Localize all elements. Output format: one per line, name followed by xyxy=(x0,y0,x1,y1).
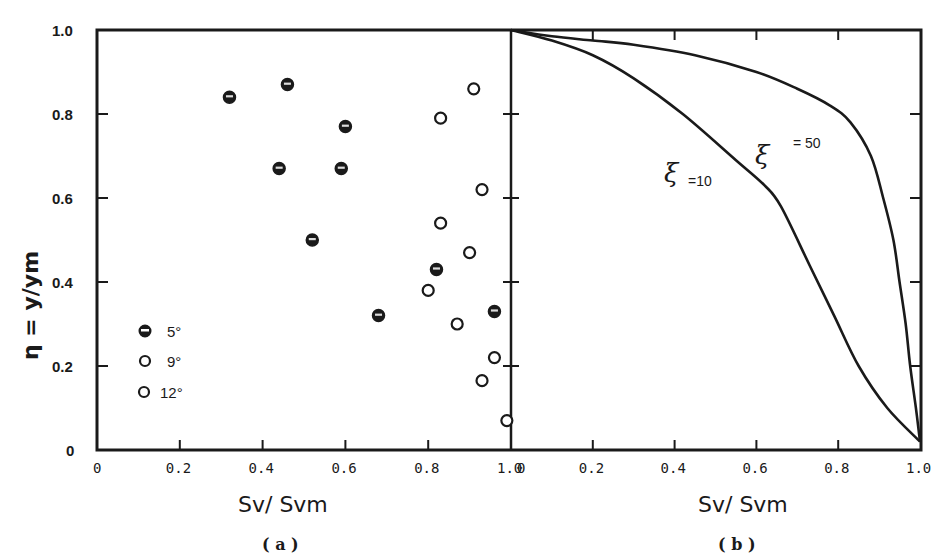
panel-label-a: ( a ) xyxy=(262,535,299,554)
x-tick-label: 0.4 xyxy=(661,460,686,476)
curve-xi-10 xyxy=(511,30,920,442)
data-point-open xyxy=(468,83,479,94)
data-point-5deg xyxy=(273,163,285,175)
figure: 00.20.40.60.81.000.20.40.60.81.000.20.40… xyxy=(0,0,947,560)
open-circle-icon xyxy=(140,356,150,366)
x-tick-label: 0.2 xyxy=(166,460,191,476)
scatter-points xyxy=(223,79,512,427)
x-tick-label: 0 xyxy=(517,460,525,476)
x-tick-label: 0.6 xyxy=(331,460,356,476)
x-tick-label: 0.6 xyxy=(742,460,767,476)
curve-label-xi-50: ξ = 50 xyxy=(755,135,821,170)
data-point-open xyxy=(477,184,488,195)
y-tick-label: 1.0 xyxy=(52,22,73,39)
svg-text:= 50: = 50 xyxy=(793,135,821,151)
data-point-5deg xyxy=(281,79,293,91)
legend-item-12deg: 12° xyxy=(139,384,183,401)
data-point-5deg xyxy=(430,263,442,275)
y-axis-title: η = y/ym xyxy=(18,251,43,360)
data-point-open xyxy=(464,247,475,258)
x-tick-label: 0.8 xyxy=(824,460,849,476)
curve-xi-50 xyxy=(511,30,920,442)
y-tick-label: 0.8 xyxy=(52,106,73,123)
x-tick-label: 1.0 xyxy=(906,460,931,476)
svg-text:ξ: ξ xyxy=(755,140,771,170)
data-point-5deg xyxy=(335,163,347,175)
open-circle-icon xyxy=(139,387,149,397)
data-point-5deg xyxy=(373,310,385,322)
y-tick-label: 0.4 xyxy=(52,274,74,291)
data-point-open xyxy=(477,375,488,386)
data-point-5deg xyxy=(488,305,500,317)
svg-text:9°: 9° xyxy=(167,353,181,370)
legend: 5° 9° 12° xyxy=(139,323,183,401)
data-point-5deg xyxy=(339,121,351,133)
x-axis-title-b: Sv/ Svm xyxy=(698,492,788,517)
data-point-open xyxy=(435,218,446,229)
y-tick-label: 0.6 xyxy=(52,190,73,207)
curves xyxy=(511,30,920,442)
curve-label-xi-10: ξ =10 xyxy=(664,158,712,189)
data-point-open xyxy=(501,415,512,426)
legend-item-9deg: 9° xyxy=(140,353,181,370)
data-point-5deg xyxy=(306,234,318,246)
data-point-open xyxy=(435,113,446,124)
svg-text:5°: 5° xyxy=(167,323,181,340)
data-point-open xyxy=(423,285,434,296)
svg-text:=10: =10 xyxy=(688,173,712,189)
data-point-open xyxy=(452,319,463,330)
x-tick-label: 0.8 xyxy=(414,460,439,476)
x-tick-label: 0 xyxy=(93,460,101,476)
data-point-5deg xyxy=(223,91,235,103)
svg-text:ξ: ξ xyxy=(664,158,680,188)
panel-label-b: ( b ) xyxy=(718,535,755,554)
svg-text:12°: 12° xyxy=(160,384,183,401)
legend-item-5deg: 5° xyxy=(140,323,182,340)
y-tick-label: 0.2 xyxy=(52,358,73,375)
y-tick-label: 0 xyxy=(66,442,74,459)
x-tick-label: 0.4 xyxy=(249,460,274,476)
x-tick-label: 0.2 xyxy=(579,460,604,476)
data-point-open xyxy=(489,352,500,363)
x-axis-title-a: Sv/ Svm xyxy=(238,492,328,517)
